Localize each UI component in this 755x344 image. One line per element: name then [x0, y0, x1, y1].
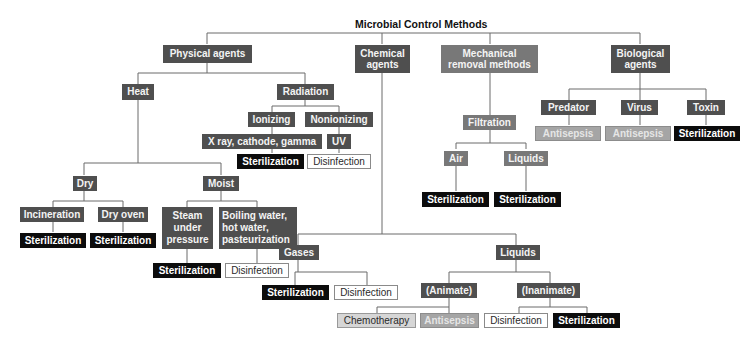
node-air: Air — [444, 151, 468, 166]
node-liquids-chemical: Liquids — [496, 245, 540, 260]
node-boiling-disinfection: Disinfection — [225, 263, 289, 278]
node-gases: Gases — [279, 245, 319, 260]
node-mechanical-removal: Mechanical removal methods — [441, 45, 538, 73]
node-gases-sterilization: Sterilization — [262, 285, 329, 300]
node-biological-agents: Biological agents — [611, 45, 670, 73]
node-steam-under-pressure: Steam under pressure — [162, 207, 213, 249]
node-chemotherapy: Chemotherapy — [337, 313, 416, 328]
node-filtration: Filtration — [463, 115, 516, 130]
node-toxin-sterilization: Sterilization — [674, 126, 740, 141]
node-incineration-sterilization: Sterilization — [20, 233, 86, 248]
node-dry: Dry — [73, 176, 97, 191]
node-xray-cathode-gamma: X ray, cathode, gamma — [202, 134, 322, 149]
node-gases-disinfection: Disinfection — [334, 285, 398, 300]
node-physical-agents: Physical agents — [163, 45, 252, 63]
node-liquids-filtration: Liquids — [504, 151, 548, 166]
node-animate: (Animate) — [421, 283, 477, 298]
node-heat: Heat — [122, 84, 154, 100]
node-incineration: Incineration — [20, 207, 84, 222]
microbial-control-diagram: Microbial Control Methods Physical agent… — [0, 0, 755, 344]
node-predator: Predator — [541, 100, 596, 115]
node-uv: UV — [327, 134, 351, 149]
node-boiling-water: Boiling water, hot water, pasteurization — [219, 207, 297, 249]
node-air-sterilization: Sterilization — [422, 192, 489, 207]
node-liquids-sterilization: Sterilization — [494, 192, 561, 207]
node-predator-antisepsis: Antisepsis — [535, 126, 601, 141]
node-dry-oven: Dry oven — [98, 207, 148, 222]
node-inanimate-disinfection: Disinfection — [484, 313, 548, 328]
node-chemical-agents: Chemical agents — [355, 45, 410, 73]
node-dry-oven-sterilization: Sterilization — [90, 233, 156, 248]
node-virus-antisepsis: Antisepsis — [605, 126, 671, 141]
node-virus: Virus — [621, 100, 658, 115]
node-animate-antisepsis: Antisepsis — [420, 313, 479, 328]
node-inanimate: (Inanimate) — [517, 283, 580, 298]
node-radiation: Radiation — [277, 84, 334, 100]
node-nonionizing: Nonionizing — [305, 112, 373, 127]
node-steam-sterilization: Sterilization — [153, 263, 221, 278]
node-moist: Moist — [203, 176, 239, 191]
node-toxin: Toxin — [687, 100, 725, 115]
node-radiation-sterilization: Sterilization — [237, 154, 304, 169]
node-ionizing: Ionizing — [248, 112, 295, 127]
node-inanimate-sterilization: Sterilization — [553, 313, 620, 328]
diagram-title: Microbial Control Methods — [355, 18, 487, 30]
node-radiation-disinfection: Disinfection — [307, 154, 371, 169]
